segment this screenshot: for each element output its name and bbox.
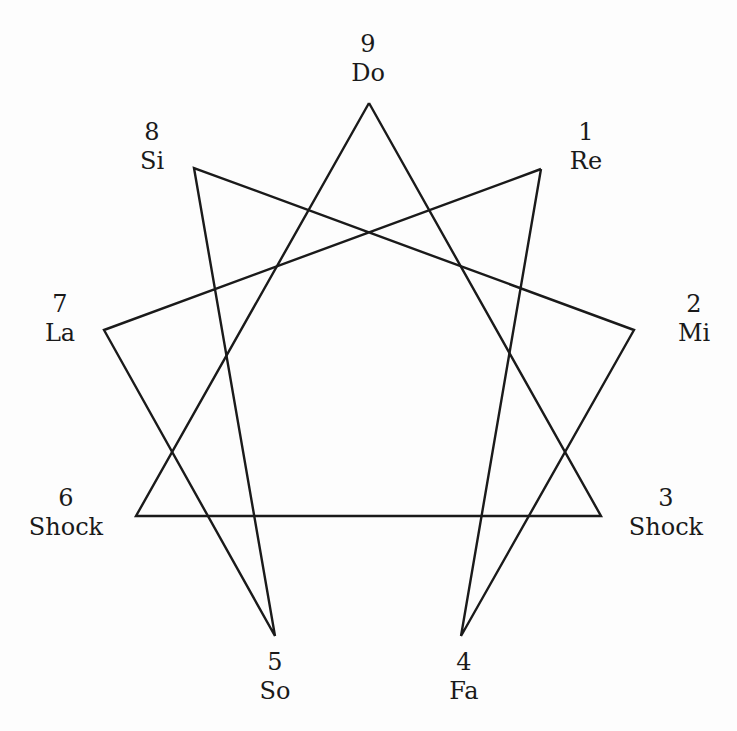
point-label-3: 3 Shock — [629, 484, 703, 542]
point-number: 5 — [260, 648, 291, 677]
point-number: 2 — [678, 290, 710, 319]
point-number: 4 — [449, 648, 478, 677]
inner-triangle — [136, 103, 601, 516]
point-number: 7 — [45, 290, 75, 319]
point-number: 6 — [29, 484, 103, 513]
point-note: Fa — [449, 677, 478, 706]
point-note: So — [260, 677, 291, 706]
enneagram-figure: 9 Do 1 Re 2 Mi 3 Shock 4 Fa 5 So 6 Shock… — [0, 0, 737, 731]
point-label-2: 2 Mi — [678, 290, 710, 348]
point-label-4: 4 Fa — [449, 648, 478, 706]
point-label-8: 8 Si — [140, 118, 164, 176]
point-number: 9 — [351, 30, 385, 59]
point-number: 1 — [570, 118, 602, 147]
point-label-9: 9 Do — [351, 30, 385, 88]
point-number: 8 — [140, 118, 164, 147]
enneagram-lines — [0, 0, 737, 731]
point-note: Do — [351, 59, 385, 88]
point-note: Re — [570, 147, 602, 176]
point-label-1: 1 Re — [570, 118, 602, 176]
point-note: Mi — [678, 319, 710, 348]
point-note: Shock — [29, 513, 103, 542]
point-note: Shock — [629, 513, 703, 542]
point-note: La — [45, 319, 75, 348]
point-number: 3 — [629, 484, 703, 513]
point-label-7: 7 La — [45, 290, 75, 348]
point-label-6: 6 Shock — [29, 484, 103, 542]
point-note: Si — [140, 147, 164, 176]
point-label-5: 5 So — [260, 648, 291, 706]
hexad-figure — [104, 168, 634, 636]
